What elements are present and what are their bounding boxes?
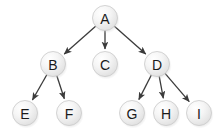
nodes-layer: ABCDEFGHI	[13, 6, 212, 126]
node-label-b: B	[48, 57, 57, 73]
tree-edge-d-i	[164, 72, 189, 101]
tree-edge-a-b	[64, 25, 97, 54]
tree-edge-d-g	[139, 74, 152, 100]
tree-node-h[interactable]: H	[154, 101, 179, 126]
tree-node-a[interactable]: A	[93, 6, 118, 31]
tree-edge-a-d	[113, 25, 146, 54]
tree-edge-b-e	[32, 74, 47, 100]
node-label-e: E	[20, 106, 29, 122]
node-label-g: G	[127, 106, 138, 122]
node-label-h: H	[161, 106, 171, 122]
tree-node-g[interactable]: G	[120, 101, 145, 126]
tree-diagram-canvas: ABCDEFGHI	[0, 0, 224, 135]
tree-node-f[interactable]: F	[57, 101, 82, 126]
node-label-i: I	[197, 106, 201, 122]
node-label-d: D	[152, 57, 162, 73]
tree-node-c[interactable]: C	[93, 52, 118, 77]
node-label-c: C	[100, 57, 110, 73]
tree-node-d[interactable]: D	[145, 52, 170, 77]
tree-diagram: ABCDEFGHI	[0, 0, 224, 135]
tree-node-e[interactable]: E	[13, 101, 38, 126]
node-label-a: A	[100, 11, 110, 27]
tree-node-b[interactable]: B	[41, 52, 66, 77]
node-label-f: F	[65, 106, 74, 122]
tree-node-i[interactable]: I	[187, 101, 212, 126]
